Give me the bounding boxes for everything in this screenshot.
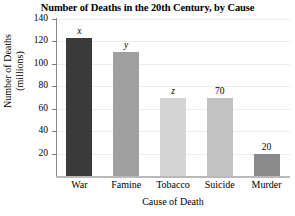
- y-axis-tick-label: 120: [14, 36, 48, 46]
- y-axis-tick-label: 100: [14, 59, 48, 69]
- bar-value-label: x: [54, 26, 104, 36]
- x-axis-category-label: Murder: [243, 179, 290, 191]
- bar: [160, 98, 186, 177]
- x-axis-category-label: Tobacco: [150, 179, 197, 191]
- bar: [254, 154, 280, 176]
- bar: [207, 98, 233, 177]
- plot-area: xyz7020: [56, 19, 290, 176]
- y-axis-tick-label: 20: [14, 149, 48, 159]
- bar-value-label: 20: [242, 142, 292, 152]
- bar: [113, 52, 139, 176]
- bar-value-label: 70: [195, 86, 245, 96]
- bar-value-label: z: [148, 86, 198, 96]
- y-axis-tick-label: 140: [14, 14, 48, 24]
- x-axis-title: Cause of Death: [56, 196, 290, 208]
- y-axis-title-line1: Number of Deaths: [2, 16, 14, 126]
- bar-value-label: y: [101, 40, 151, 50]
- bar: [66, 38, 92, 176]
- x-axis-category-label: Famine: [103, 179, 150, 191]
- x-axis-category-label: War: [56, 179, 103, 191]
- y-axis-tick-label: 40: [14, 126, 48, 136]
- bar-chart-figure: Number of Deaths in the 20th Century, by…: [0, 0, 295, 216]
- x-axis-line: [56, 176, 290, 178]
- y-axis-tick-label: 60: [14, 104, 48, 114]
- x-axis-category-label: Suicide: [196, 179, 243, 191]
- y-axis-tick-label: 80: [14, 81, 48, 91]
